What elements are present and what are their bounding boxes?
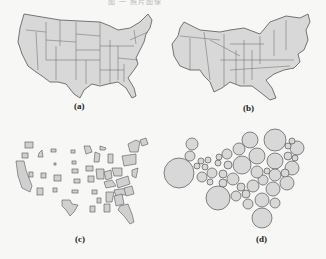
cartogram-dorling-circles bbox=[0, 0, 326, 259]
state-circle bbox=[194, 163, 200, 169]
state-circle bbox=[215, 160, 221, 166]
state-circle bbox=[186, 138, 198, 150]
state-circle bbox=[292, 155, 298, 161]
state-circle bbox=[205, 157, 211, 163]
state-circle bbox=[207, 179, 213, 185]
state-circle bbox=[233, 143, 245, 155]
state-circle bbox=[255, 193, 269, 207]
state-circle bbox=[284, 152, 292, 160]
state-circle bbox=[231, 191, 241, 201]
state-circle bbox=[251, 166, 263, 178]
state-circle bbox=[264, 129, 286, 151]
state-circle bbox=[216, 154, 222, 160]
state-circle bbox=[206, 186, 230, 210]
state-circle bbox=[243, 199, 253, 209]
state-circle bbox=[197, 172, 207, 182]
state-circle bbox=[185, 151, 195, 161]
panel-label-d: (d) bbox=[256, 234, 267, 244]
state-circle bbox=[164, 158, 194, 188]
state-circle bbox=[219, 179, 227, 187]
panel-d-dorling-cartogram bbox=[0, 0, 326, 259]
state-circle bbox=[269, 169, 281, 181]
state-circle bbox=[247, 180, 259, 192]
state-circle bbox=[202, 164, 208, 170]
state-circle bbox=[266, 182, 280, 196]
state-circle bbox=[280, 176, 294, 190]
state-circle bbox=[264, 168, 270, 174]
state-circle bbox=[198, 158, 204, 164]
state-circle bbox=[281, 169, 289, 177]
state-circle bbox=[222, 149, 232, 159]
state-circle bbox=[242, 132, 258, 148]
state-circle bbox=[233, 156, 251, 174]
state-circle bbox=[227, 173, 239, 185]
state-circle bbox=[289, 138, 295, 144]
state-circle bbox=[237, 183, 245, 191]
state-circle bbox=[224, 161, 232, 169]
state-circle bbox=[267, 153, 283, 169]
state-circle bbox=[219, 170, 227, 178]
state-circle bbox=[207, 168, 217, 178]
state-circle bbox=[270, 198, 280, 208]
state-circle bbox=[249, 148, 265, 164]
state-circle bbox=[242, 190, 250, 198]
state-circle bbox=[252, 208, 272, 228]
state-circle bbox=[285, 143, 291, 149]
